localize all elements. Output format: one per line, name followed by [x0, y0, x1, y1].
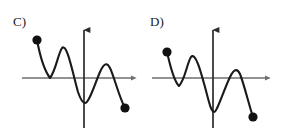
curve-d-end-point — [248, 112, 257, 121]
plot-c — [0, 0, 141, 134]
curve-c-start-point — [32, 35, 41, 44]
plot-d — [141, 0, 282, 134]
curve-c-end-point — [120, 103, 129, 112]
curve-d-start-point — [162, 47, 171, 56]
panel-c: C) — [0, 0, 141, 134]
curve-c — [37, 40, 125, 108]
curve-d — [167, 52, 253, 117]
panel-d: D) — [141, 0, 282, 134]
figure-root: C) D) — [0, 0, 282, 134]
